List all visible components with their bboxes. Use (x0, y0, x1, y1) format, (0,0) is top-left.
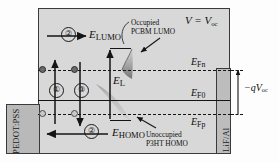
ehomo-label: EHOMO (112, 126, 145, 140)
hole-dot (39, 110, 46, 117)
level-line-ef0 (38, 100, 230, 101)
homo-band-mark (110, 120, 131, 121)
qvoc-sub: oc (262, 86, 268, 93)
level-tick-efn-right (231, 70, 243, 71)
annotation-unoccupied-p3ht-homo: Unoccupied P3HT HOMO (146, 131, 188, 148)
process-number-3: ③ (74, 83, 89, 98)
lifal-label: LiF/Al (221, 104, 231, 152)
ef0-label: EF0 (191, 87, 205, 100)
ehomo-sub: HOMO (119, 130, 145, 140)
lumo-band-mark (110, 48, 131, 49)
pedot-pss-label: PEDOT:PSS (11, 92, 21, 154)
elumo-sub: LUMO (96, 32, 121, 42)
level-tick-efp-right (231, 114, 243, 115)
ef0-sub: F0 (197, 91, 205, 100)
level-line-efn (38, 70, 231, 71)
efn-sub: Fn (197, 60, 205, 69)
el-symbol: E (113, 74, 120, 86)
hole-dot (71, 110, 78, 117)
elumo-label: ELUMO (89, 28, 121, 42)
annotation-occupied-line2: PCBM LUMO (131, 28, 175, 37)
bias-condition-label: V = Voc (185, 14, 218, 27)
bias-condition-sub: oc (211, 20, 217, 27)
electron-dot (71, 66, 78, 73)
process-number-2-bottom: ② (84, 124, 99, 139)
annotation-unoccupied-line2: P3HT HOMO (146, 140, 188, 149)
bias-condition-main: V = V (185, 14, 211, 26)
ehomo-symbol: E (112, 126, 119, 138)
band-diagram-figure: PEDOT:PSS LiF/Al ② ① ③ ② V = Voc ELUMO E… (0, 0, 279, 162)
efp-label: EFp (191, 116, 205, 129)
process-number-2-top: ② (61, 27, 76, 42)
annotation-occupied-pcbm-lumo: Occupied PCBM LUMO (131, 19, 175, 36)
efp-sub: Fp (197, 120, 205, 129)
qvoc-label: −qVoc (244, 82, 268, 93)
electron-dot (39, 66, 46, 73)
level-line-efp (38, 114, 231, 115)
elumo-symbol: E (89, 28, 96, 40)
efn-label: EFn (191, 56, 205, 69)
el-label: EL (113, 74, 125, 88)
el-sub: L (120, 78, 125, 88)
qvoc-symbol: −qV (244, 82, 262, 93)
process-number-1: ① (49, 83, 64, 98)
